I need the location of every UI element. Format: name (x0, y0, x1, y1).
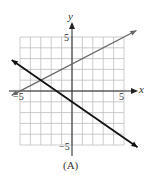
x-axis-label: x (139, 84, 144, 95)
y-axis-label: y (68, 11, 73, 22)
axes (9, 22, 138, 156)
y-axis-arrow-icon (69, 22, 75, 29)
coordinate-plane-figure: y x 5 −5 −5 5 (A) (0, 0, 146, 178)
x-axis-arrow-icon (131, 88, 138, 94)
y-tick-label-neg5: −5 (59, 142, 70, 152)
x-tick-label-5: 5 (119, 92, 124, 102)
figure-caption: (A) (63, 160, 78, 171)
y-tick-label-5: 5 (64, 33, 69, 43)
x-tick-label-neg5: −5 (13, 92, 24, 102)
plot-area (0, 0, 146, 178)
